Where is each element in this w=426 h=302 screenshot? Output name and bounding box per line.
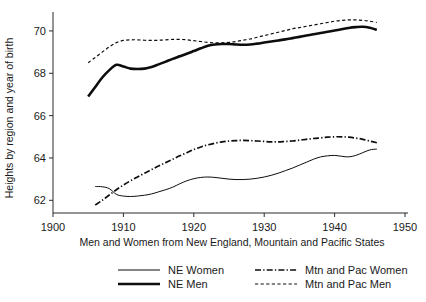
y-tick-label: 64 [34, 152, 46, 164]
x-axis-title: Men and Women from New England, Mountain… [79, 236, 384, 248]
x-tick-label: 1950 [393, 221, 417, 233]
legend-label-mtn-and-pac-women: Mtn and Pac Women [305, 264, 408, 276]
y-tick-label: 66 [34, 110, 46, 122]
x-tick-label: 1910 [111, 221, 135, 233]
legend-label-ne-women: NE Women [168, 264, 224, 276]
chart-figure: 6264666870 190019101920193019401950 Heig… [0, 0, 426, 302]
height-trend-line-chart: 6264666870 190019101920193019401950 Heig… [0, 0, 426, 302]
x-tick-label: 1920 [182, 221, 206, 233]
x-tick-label: 1930 [252, 221, 276, 233]
y-tick-label: 62 [34, 194, 46, 206]
y-axis-title: Heights by region and year of birth [3, 38, 15, 199]
x-tick-label: 1940 [322, 221, 346, 233]
y-tick-label: 68 [34, 67, 46, 79]
legend-label-mtn-and-pac-men: Mtn and Pac Men [305, 278, 391, 290]
x-tick-label: 1900 [41, 221, 65, 233]
legend-label-ne-men: NE Men [168, 278, 208, 290]
y-tick-label: 70 [34, 25, 46, 37]
